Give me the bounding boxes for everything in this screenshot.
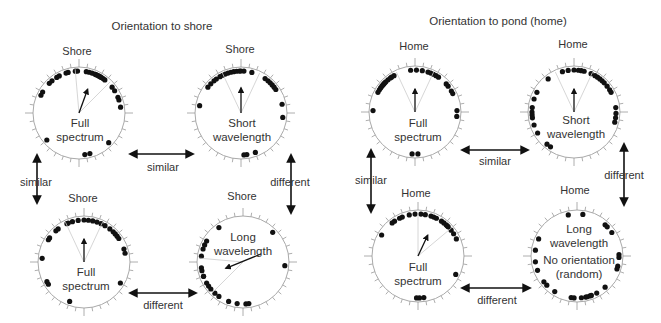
reference-label: Shore	[227, 190, 256, 203]
circular-plot	[520, 58, 628, 166]
heading-dot	[608, 90, 613, 95]
mean-vector-arrow	[79, 89, 88, 113]
comparison-label-right: different	[270, 176, 310, 189]
comparison-label-top: similar	[479, 155, 511, 168]
heading-dot	[535, 268, 540, 273]
condition-line: Full	[62, 265, 109, 279]
heading-dot	[531, 96, 536, 101]
heading-dot	[580, 212, 585, 217]
comparison-label-right: different	[604, 169, 644, 182]
heading-dot	[112, 88, 117, 93]
heading-dot	[67, 299, 72, 304]
heading-dot	[412, 212, 417, 217]
heading-dot	[616, 255, 621, 260]
heading-dot	[44, 137, 49, 142]
heading-dot	[434, 216, 439, 221]
condition-line: spectrum	[62, 279, 109, 293]
condition-line: Full	[56, 116, 103, 130]
panel-title-home: Orientation to pond (home)	[429, 15, 566, 28]
panel-title-shore: Orientation to shore	[111, 20, 212, 33]
heading-dot	[66, 70, 71, 75]
heading-dot	[197, 103, 202, 108]
heading-dot	[546, 76, 551, 81]
heading-dot	[450, 91, 455, 96]
heading-dot	[235, 301, 240, 306]
condition-line: Long	[543, 222, 615, 236]
reference-label: Home	[399, 40, 428, 53]
heading-dot	[118, 105, 123, 110]
heading-dot	[49, 78, 54, 83]
heading-dot	[454, 236, 459, 241]
heading-dot	[589, 293, 594, 298]
reference-label: Shore	[225, 43, 254, 56]
heading-dot	[249, 70, 254, 75]
heading-dot	[273, 87, 278, 92]
heading-dot	[533, 259, 538, 264]
condition-line: wavelength	[214, 244, 272, 258]
heading-dot	[569, 295, 574, 300]
heading-dot	[86, 218, 91, 223]
condition-label: Short wavelength	[547, 113, 605, 141]
heading-dot	[454, 108, 459, 113]
heading-dot	[421, 295, 426, 300]
heading-dot	[451, 231, 456, 236]
heading-dot	[237, 68, 242, 73]
heading-dot	[216, 294, 221, 299]
heading-dot	[409, 151, 414, 156]
heading-dot	[536, 236, 541, 241]
heading-dot	[392, 219, 397, 224]
heading-dot	[544, 142, 549, 147]
heading-dot	[201, 274, 206, 279]
heading-dot	[56, 226, 61, 231]
heading-dot	[530, 115, 535, 120]
condition-line: wavelength	[547, 127, 605, 141]
circular-plot	[189, 208, 297, 316]
condition-line: (random)	[543, 267, 615, 281]
heading-dot	[199, 268, 204, 273]
circular-plot	[25, 59, 133, 167]
condition-line: Long	[214, 230, 272, 244]
heading-dot	[82, 152, 87, 157]
condition-label: Long wavelength	[214, 230, 272, 258]
heading-dot	[279, 102, 284, 107]
comparison-label-bottom: different	[477, 294, 517, 307]
reference-label: Home	[558, 38, 587, 51]
condition-line: spectrum	[394, 274, 441, 288]
heading-dot	[400, 214, 405, 219]
mean-vector-arrow	[418, 235, 428, 256]
heading-dot	[241, 152, 246, 157]
heading-dot	[282, 263, 287, 268]
condition-line: wavelength	[543, 236, 615, 250]
heading-dot	[415, 151, 420, 156]
heading-dot	[613, 115, 618, 120]
condition-line: Short	[547, 113, 605, 127]
heading-dot	[552, 289, 557, 294]
heading-dot	[454, 114, 459, 119]
heading-dot	[453, 272, 458, 277]
heading-dot	[560, 69, 565, 74]
heading-dot	[612, 120, 617, 125]
heading-dot	[566, 212, 571, 217]
heading-dot	[246, 301, 251, 306]
circular-plot	[361, 58, 469, 166]
heading-dot	[47, 235, 52, 240]
comparison-label-left: similar	[355, 174, 387, 187]
circular-plot	[187, 59, 295, 167]
heading-dot	[226, 299, 231, 304]
heading-dot	[594, 290, 599, 295]
heading-dot	[102, 77, 107, 82]
heading-dot	[391, 73, 396, 78]
heading-dot	[531, 122, 536, 127]
heading-dot	[253, 150, 258, 155]
heading-dot	[414, 295, 419, 300]
heading-dot	[407, 212, 412, 217]
heading-dot	[408, 68, 413, 73]
heading-dot	[420, 68, 425, 73]
heading-dot	[603, 285, 608, 290]
reference-label: Home	[401, 187, 430, 200]
comparison-label-bottom: different	[143, 299, 183, 312]
heading-dot	[40, 256, 45, 261]
heading-dot	[200, 246, 205, 251]
heading-dot	[76, 218, 81, 223]
condition-line: Full	[394, 116, 441, 130]
